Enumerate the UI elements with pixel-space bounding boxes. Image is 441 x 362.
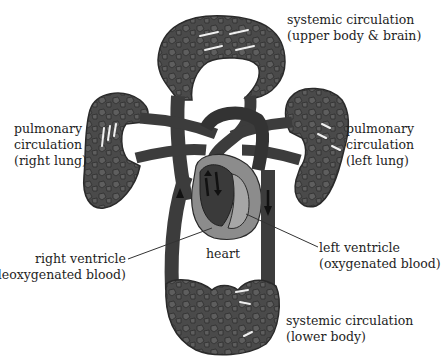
upper-body-capillary-bed — [158, 16, 285, 100]
label-pulmonary-left-lung: pulmonary circulation (left lung) — [346, 121, 414, 169]
lower-body-capillary-bed — [166, 280, 279, 355]
right-lung-capillary-bed — [84, 93, 148, 208]
heart — [192, 154, 262, 239]
left-lung-capillary-bed — [286, 88, 349, 206]
left-ventricle-leader — [246, 214, 318, 247]
label-left-ventricle: left ventricle (oxygenated blood) — [319, 240, 441, 272]
label-heart: heart — [206, 246, 240, 262]
label-pulmonary-right-lung: pulmonary circulation (right lung) — [14, 121, 87, 169]
label-systemic-lower: systemic circulation (lower body) — [286, 313, 413, 345]
label-systemic-upper: systemic circulation (upper body & brain… — [287, 12, 421, 44]
label-right-ventricle: right ventricle (deoxygenated blood) — [0, 251, 126, 283]
